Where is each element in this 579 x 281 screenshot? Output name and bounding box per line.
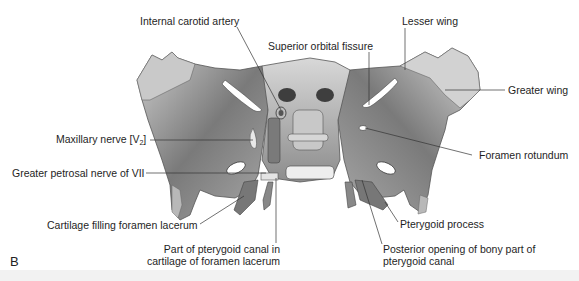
label-posterior-opening-pterygoid-canal: Posterior opening of bony part of pteryg… (383, 243, 535, 267)
part-pterygoid-canal-line-1: Part of pterygoid canal in (140, 243, 280, 255)
anatomy-figure: Internal carotid artery Superior orbital… (0, 0, 579, 281)
label-pterygoid-process: Pterygoid process (400, 218, 484, 230)
label-superior-orbital-fissure: Superior orbital fissure (268, 40, 373, 52)
right-wing (334, 48, 480, 214)
label-part-pterygoid-canal: Part of pterygoid canal in cartilage of … (140, 243, 280, 267)
label-foramen-rotundum: Foramen rotundum (479, 149, 568, 161)
maxillary-nerve-text: Maxillary nerve [V (56, 133, 139, 145)
maxillary-nerve-bracket: ] (143, 133, 146, 145)
panel-letter: B (10, 254, 19, 269)
label-lesser-wing: Lesser wing (402, 15, 458, 27)
label-greater-petrosal-nerve: Greater petrosal nerve of VII (12, 167, 144, 179)
label-internal-carotid-artery: Internal carotid artery (140, 15, 239, 27)
label-greater-wing: Greater wing (508, 84, 568, 96)
posterior-opening-line-2: pterygoid canal (383, 255, 535, 267)
sphenoid-body (261, 58, 350, 182)
pterygoid-processes (234, 180, 388, 215)
label-maxillary-nerve: Maxillary nerve [V2] (56, 133, 146, 149)
part-pterygoid-canal-line-2: cartilage of foramen lacerum (140, 255, 280, 267)
label-cartilage-filling-foramen-lacerum: Cartilage filling foramen lacerum (47, 219, 198, 231)
posterior-opening-line-1: Posterior opening of bony part of (383, 243, 535, 255)
bottom-margin (0, 270, 579, 281)
